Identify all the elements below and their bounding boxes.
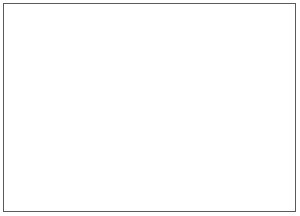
- figure-frame: [0, 0, 300, 216]
- medical-illustration: [4, 4, 295, 211]
- illustration-canvas: [4, 4, 295, 211]
